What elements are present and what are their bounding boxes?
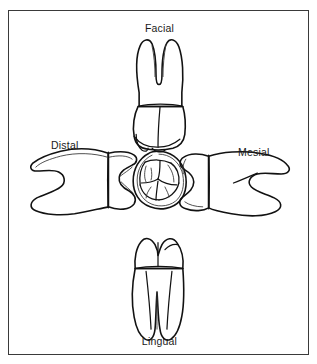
figure-frame: Facial Distal Mesial Lingual: [8, 10, 309, 355]
tooth-view-mesial: [180, 152, 290, 216]
label-mesial: Mesial: [238, 147, 270, 158]
label-facial: Facial: [9, 23, 310, 34]
tooth-view-facial: [133, 40, 185, 152]
label-distal: Distal: [51, 140, 78, 151]
tooth-view-occlusal: [133, 151, 186, 209]
tooth-diagram-svg: [9, 11, 308, 354]
tooth-view-distal: [31, 149, 137, 215]
label-lingual: Lingual: [9, 336, 310, 347]
tooth-view-lingual: [132, 239, 183, 341]
